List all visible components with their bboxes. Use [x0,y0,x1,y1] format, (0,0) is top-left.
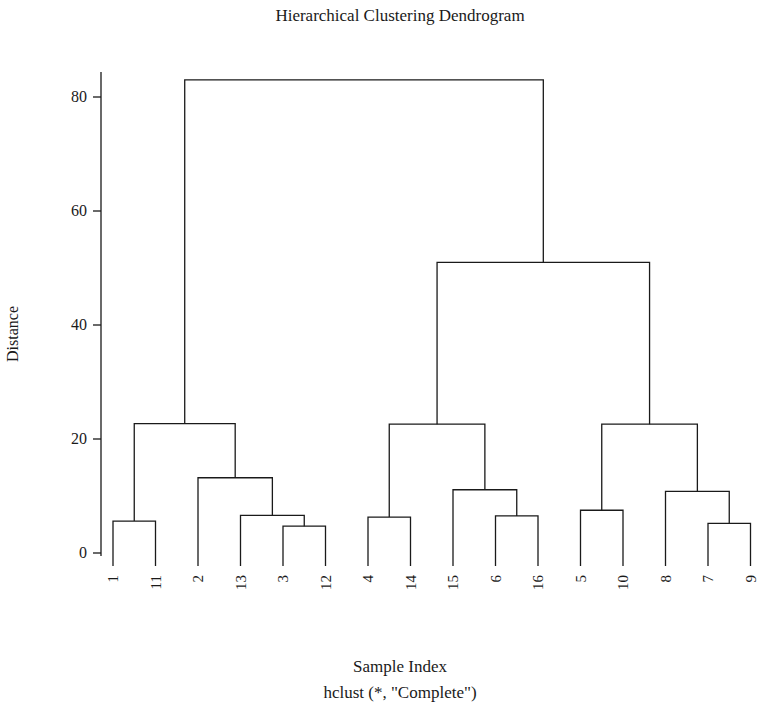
y-axis-ticks: 020406080 [71,88,101,561]
y-tick-label: 20 [71,430,87,447]
dendrogram-link-m7 [496,516,539,553]
dendrogram-link-m14 [437,262,650,424]
x-axis-title: Sample Index [353,657,447,676]
leaf-label-14: 14 [403,575,419,591]
page-title: Hierarchical Clustering Dendrogram [275,6,524,25]
dendrogram-link-m5 [134,424,235,521]
leaf-labels: 11121331241415616510879 [105,575,759,591]
leaf-label-10: 10 [615,575,631,590]
dendrogram-link-m1 [113,521,156,553]
y-tick-label: 0 [79,544,87,561]
y-tick-label: 40 [71,316,87,333]
leaf-label-15: 15 [445,575,461,590]
leaf-label-7: 7 [700,575,716,583]
dendrogram-link-m6 [368,517,411,553]
leaf-label-6: 6 [488,575,504,583]
leaf-label-9: 9 [743,575,759,583]
dendrogram-link-m10 [581,510,624,553]
leaf-label-3: 3 [275,575,291,583]
dendrogram-link-m13 [602,424,698,510]
leaf-tick-marks [113,553,751,566]
leaf-label-1: 1 [105,575,121,583]
leaf-label-13: 13 [233,575,249,590]
y-tick-label: 60 [71,202,87,219]
dendrogram-link-m12 [666,491,730,553]
dendrogram-link-m2 [283,526,326,553]
leaf-label-8: 8 [658,575,674,583]
y-axis-title: Distance [4,306,21,362]
y-tick-label: 80 [71,88,87,105]
leaf-label-11: 11 [148,575,164,589]
figure-subtitle: hclust (*, "Complete") [323,683,476,702]
dendrogram-link-m11 [708,523,751,553]
leaf-label-12: 12 [318,575,334,590]
leaf-label-5: 5 [573,575,589,583]
dendrogram-link-m8 [453,490,517,553]
leaf-label-16: 16 [530,575,546,591]
dendrogram-figure: Hierarchical Clustering Dendrogram Dista… [0,0,762,715]
dendrogram-link-m15 [185,80,544,424]
dendrogram-links [113,80,751,553]
dendrogram-link-m9 [389,424,485,517]
dendrogram-link-m3 [241,515,305,553]
leaf-label-2: 2 [190,575,206,583]
leaf-label-4: 4 [360,575,376,583]
